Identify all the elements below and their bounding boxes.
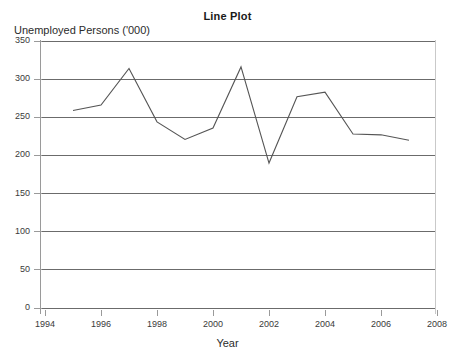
- plot-area: [0, 0, 455, 360]
- series-polyline: [73, 67, 409, 163]
- axis-lines: [40, 40, 435, 314]
- x-tick-label: 1994: [25, 320, 65, 329]
- y-tick-label: 200: [0, 150, 30, 159]
- y-tick-label: 300: [0, 74, 30, 83]
- data-series-line: [73, 67, 409, 163]
- x-tick-label: 2000: [193, 320, 233, 329]
- y-tick-label: 50: [0, 265, 30, 274]
- x-tick-label: 2006: [361, 320, 401, 329]
- tick-marks: [34, 41, 437, 316]
- gridlines: [42, 41, 435, 308]
- y-tick-label: 250: [0, 112, 30, 121]
- x-tick-label: 1996: [81, 320, 121, 329]
- x-tick-label: 1998: [137, 320, 177, 329]
- y-tick-label: 0: [0, 303, 30, 312]
- x-tick-label: 2002: [249, 320, 289, 329]
- x-tick-label: 2008: [417, 320, 455, 329]
- y-tick-label: 100: [0, 227, 30, 236]
- y-tick-label: 350: [0, 36, 30, 45]
- y-tick-label: 150: [0, 189, 30, 198]
- x-tick-label: 2004: [305, 320, 345, 329]
- line-plot-chart: Line Plot Unemployed Persons ('000) Year…: [0, 0, 455, 360]
